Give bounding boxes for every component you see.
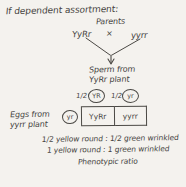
- parents-label: Parents: [95, 17, 125, 27]
- phenotype-ratio-whole: 1 yellow round : 1 green wrinkled: [46, 144, 169, 155]
- genetics-diagram-sheet: If dependent assortment: Parents YyRr × …: [0, 0, 186, 187]
- egg-gamete-circle: yr: [62, 110, 78, 125]
- phenotype-ratio-caption: Phenotypic ratio: [77, 157, 138, 167]
- eggs-label-line2: yyrr plant: [9, 120, 48, 130]
- punnett-cell: YyRr: [81, 106, 115, 126]
- eggs-label-line1: Eggs from: [9, 110, 50, 120]
- punnett-square: YyRr yyrr: [81, 106, 147, 127]
- sperm-gamete-2-circle: yr: [122, 89, 139, 103]
- punnett-cell: yyrr: [114, 106, 147, 126]
- parent-right-genotype: yyrr: [130, 30, 148, 40]
- sperm-gamete-1-circle: YR: [88, 89, 105, 104]
- parent-left-genotype: YyRr: [71, 29, 91, 39]
- sperm-gamete-2-fraction: 1/2: [111, 92, 123, 100]
- sperm-label-line2: YyRr plant: [88, 75, 129, 85]
- phenotype-ratio-fractional: 1/2 yellow round : 1/2 green wrinkled: [41, 133, 179, 144]
- sperm-gamete-1-fraction: 1/2: [76, 92, 88, 100]
- sperm-label-line1: Sperm from: [88, 65, 135, 75]
- page-title: If dependent assortment:: [5, 4, 118, 16]
- cross-symbol: ×: [106, 29, 114, 38]
